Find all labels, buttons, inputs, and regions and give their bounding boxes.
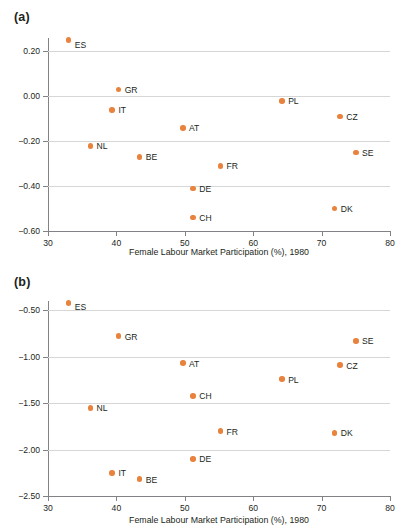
data-point-label: DK bbox=[341, 204, 353, 214]
gridline bbox=[48, 310, 390, 311]
x-axis-tick-label: 40 bbox=[112, 503, 122, 513]
x-axis-tick bbox=[116, 231, 117, 236]
data-point bbox=[88, 405, 94, 411]
x-axis-tick-label: 50 bbox=[180, 503, 190, 513]
panel-a-y-axis bbox=[48, 38, 49, 231]
x-axis-tick bbox=[253, 231, 254, 236]
x-axis-tick bbox=[116, 496, 117, 501]
x-axis-tick bbox=[253, 496, 254, 501]
panel-b: (b) −0.50−1.00−1.50−2.00−2.5030405060708… bbox=[0, 265, 406, 530]
gridline bbox=[48, 450, 390, 451]
data-point bbox=[137, 154, 143, 160]
data-point bbox=[190, 186, 196, 192]
gridline bbox=[48, 357, 390, 358]
panel-a: (a) 0.200.00−0.20−0.40−0.60304050607080E… bbox=[0, 0, 406, 265]
x-axis-tick-label: 30 bbox=[43, 503, 53, 513]
data-point-label: IT bbox=[118, 468, 126, 478]
data-point-label: GR bbox=[125, 332, 138, 342]
gridline bbox=[48, 96, 390, 97]
y-axis-tick bbox=[43, 96, 48, 97]
data-point bbox=[218, 163, 224, 169]
data-point bbox=[109, 470, 115, 476]
x-axis-tick bbox=[185, 231, 186, 236]
data-point-label: GR bbox=[125, 85, 138, 95]
data-point-label: NL bbox=[97, 403, 108, 413]
data-point bbox=[116, 87, 122, 93]
data-point-label: FR bbox=[227, 161, 238, 171]
y-axis-tick-label: −0.60 bbox=[18, 226, 40, 236]
x-axis-tick-label: 60 bbox=[248, 503, 258, 513]
data-point bbox=[337, 362, 343, 368]
y-axis-tick-label: 0.00 bbox=[23, 91, 40, 101]
data-point-label: CH bbox=[199, 391, 211, 401]
y-axis-tick-label: −2.50 bbox=[18, 491, 40, 501]
data-point bbox=[137, 476, 143, 482]
y-axis-tick-label: −0.50 bbox=[18, 305, 40, 315]
y-axis-tick bbox=[43, 357, 48, 358]
y-axis-tick-label: 0.20 bbox=[23, 46, 40, 56]
panel-a-plot-area: 0.200.00−0.20−0.40−0.60304050607080ESGRI… bbox=[48, 38, 390, 231]
x-axis-tick bbox=[390, 496, 391, 501]
data-point-label: ES bbox=[75, 40, 86, 50]
data-point bbox=[190, 456, 196, 462]
x-axis-tick bbox=[48, 496, 49, 501]
y-axis-tick bbox=[43, 141, 48, 142]
data-point bbox=[180, 125, 186, 131]
y-axis-tick bbox=[43, 403, 48, 404]
panel-b-plot-area: −0.50−1.00−1.50−2.00−2.50304050607080ESG… bbox=[48, 301, 390, 496]
panel-a-x-axis-title: Female Labour Market Participation (%), … bbox=[48, 247, 390, 257]
data-point bbox=[116, 333, 122, 339]
data-point bbox=[337, 114, 343, 120]
data-point bbox=[190, 393, 196, 399]
data-point bbox=[218, 428, 224, 434]
data-point-label: NL bbox=[97, 141, 108, 151]
data-point bbox=[332, 206, 338, 212]
data-point bbox=[190, 215, 196, 221]
y-axis-tick-label: −1.50 bbox=[18, 398, 40, 408]
data-point-label: DK bbox=[341, 428, 353, 438]
gridline bbox=[48, 51, 390, 52]
data-point bbox=[88, 143, 94, 149]
x-axis-tick-label: 70 bbox=[317, 503, 327, 513]
y-axis-tick-label: −2.00 bbox=[18, 445, 40, 455]
data-point-label: SE bbox=[362, 148, 373, 158]
data-point bbox=[66, 300, 72, 306]
panel-a-label: (a) bbox=[14, 10, 30, 24]
y-axis-tick bbox=[43, 310, 48, 311]
data-point bbox=[66, 37, 72, 43]
data-point bbox=[353, 338, 359, 344]
data-point bbox=[353, 150, 359, 156]
data-point-label: BE bbox=[146, 152, 157, 162]
x-axis-tick bbox=[185, 496, 186, 501]
gridline bbox=[48, 186, 390, 187]
x-axis bbox=[48, 231, 391, 232]
data-point-label: CZ bbox=[346, 361, 357, 371]
data-point-label: DE bbox=[199, 184, 211, 194]
x-axis-tick bbox=[322, 231, 323, 236]
y-axis-tick-label: −1.00 bbox=[18, 352, 40, 362]
data-point-label: FR bbox=[227, 427, 238, 437]
y-axis-tick bbox=[43, 450, 48, 451]
data-point-label: IT bbox=[118, 105, 126, 115]
y-axis-tick-label: −0.40 bbox=[18, 181, 40, 191]
data-point-label: PL bbox=[288, 96, 299, 106]
x-axis-tick-label: 80 bbox=[385, 503, 395, 513]
data-point bbox=[109, 107, 115, 113]
panel-b-label: (b) bbox=[14, 275, 31, 289]
data-point-label: CH bbox=[199, 213, 211, 223]
data-point bbox=[279, 98, 285, 104]
data-point-label: DE bbox=[199, 454, 211, 464]
x-axis-tick bbox=[48, 231, 49, 236]
data-point bbox=[180, 360, 186, 366]
x-axis bbox=[48, 496, 391, 497]
data-point-label: SE bbox=[362, 336, 373, 346]
data-point-label: BE bbox=[146, 475, 157, 485]
data-point-label: AT bbox=[189, 123, 199, 133]
data-point-label: AT bbox=[189, 359, 199, 369]
data-point-label: ES bbox=[75, 302, 86, 312]
panel-b-y-axis bbox=[48, 301, 49, 496]
y-axis-tick-label: −0.20 bbox=[18, 136, 40, 146]
data-point bbox=[332, 430, 338, 436]
x-axis-tick bbox=[322, 496, 323, 501]
panel-b-x-axis-title: Female Labour Market Participation (%), … bbox=[48, 515, 390, 525]
